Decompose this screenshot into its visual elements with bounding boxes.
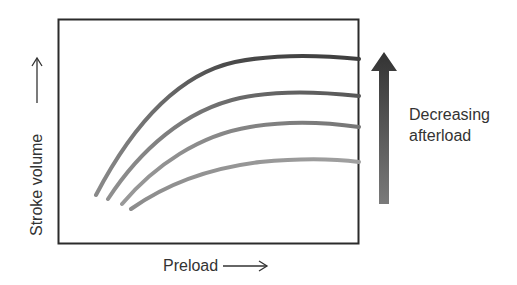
plot-frame — [59, 20, 359, 244]
annotation-line2: afterload — [409, 127, 471, 144]
frank-starling-diagram: Decreasing afterload Preload Stroke volu… — [0, 0, 517, 285]
curve-low-afterload — [108, 93, 359, 200]
annotation-line1: Decreasing — [409, 106, 490, 123]
curve-highest-afterload — [131, 159, 359, 209]
decreasing-afterload-arrow-icon — [371, 52, 397, 204]
y-axis-label: Stroke volume — [28, 134, 45, 236]
x-axis-label: Preload — [163, 257, 218, 274]
x-axis-arrow-icon — [223, 261, 267, 271]
curve-lowest-afterload — [96, 56, 359, 195]
y-axis-arrow-icon — [32, 58, 42, 103]
